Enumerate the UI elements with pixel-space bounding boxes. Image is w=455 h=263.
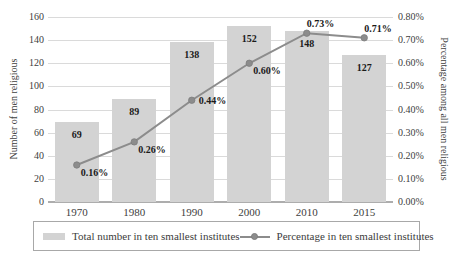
y-tick-label-left: 40	[4, 150, 44, 162]
line-marker	[74, 162, 80, 168]
combo-chart: Number of men religious Percentage among…	[0, 0, 455, 263]
y-tick-label-right: 0.20%	[398, 150, 450, 162]
percent-label: 0.26%	[138, 144, 166, 155]
y-tick-label-right: 0.50%	[398, 80, 450, 92]
x-axis-label: 2010	[278, 206, 336, 218]
bar-value-label: 69	[55, 129, 99, 140]
percent-label: 0.44%	[199, 95, 227, 106]
y-tick-label-left: 80	[4, 104, 44, 116]
percent-label: 0.71%	[364, 23, 392, 34]
line-marker-swatch-icon	[240, 232, 270, 241]
bar-value-label: 127	[342, 62, 386, 73]
legend-entry-bars: Total number in ten smallest institutes	[43, 230, 240, 242]
x-axis-label: 1970	[48, 206, 106, 218]
x-axis-label: 2000	[220, 206, 278, 218]
legend: Total number in ten smallest institutes …	[33, 221, 420, 251]
bar-value-label: 138	[170, 49, 214, 60]
x-axis-label: 1980	[105, 206, 163, 218]
percent-label: 0.16%	[81, 167, 109, 178]
y-tick-label-right: 0.60%	[398, 57, 450, 69]
line-marker	[361, 35, 367, 41]
y-tick-label-left: 140	[4, 34, 44, 46]
y-tick-label-left: 160	[4, 11, 44, 23]
legend-label-bars: Total number in ten smallest institutes	[72, 230, 240, 242]
percent-label: 0.73%	[307, 18, 335, 29]
line-marker	[131, 139, 137, 145]
y-tick-label-left: 20	[4, 173, 44, 185]
bar-value-label: 148	[285, 38, 329, 49]
x-axis-label: 1990	[163, 206, 221, 218]
bar-value-label: 89	[112, 106, 156, 117]
y-tick-label-left: 100	[4, 80, 44, 92]
y-tick-label-right: 0.70%	[398, 34, 450, 46]
y-tick-label-right: 0.30%	[398, 127, 450, 139]
legend-label-line: Percentage in ten smallest institutes	[277, 230, 434, 242]
legend-entry-line: Percentage in ten smallest institutes	[240, 230, 434, 242]
percent-label: 0.60%	[253, 65, 281, 76]
x-axis-label: 2015	[335, 206, 393, 218]
y-tick-label-left: 120	[4, 57, 44, 69]
y-tick-label-left: 60	[4, 127, 44, 139]
line-marker	[304, 30, 310, 36]
y-tick-label-right: 0.40%	[398, 104, 450, 116]
y-tick-label-right: 0.10%	[398, 173, 450, 185]
y-tick-label-right: 0.00%	[398, 196, 450, 208]
line-marker	[189, 97, 195, 103]
y-tick-label-right: 0.80%	[398, 11, 450, 23]
bar-value-label: 152	[227, 33, 271, 44]
y-tick-label-left: 0	[4, 196, 44, 208]
bar-swatch-icon	[43, 233, 65, 240]
line-marker	[246, 60, 252, 66]
